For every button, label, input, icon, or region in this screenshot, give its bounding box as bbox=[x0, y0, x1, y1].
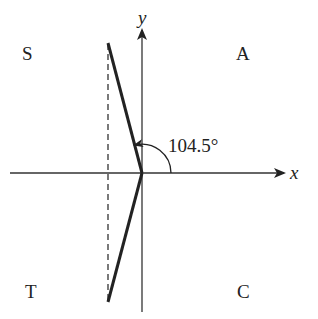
diagram-canvas: y x S A T C 104.5° bbox=[0, 0, 318, 319]
quadrant-label-t: T bbox=[25, 281, 37, 302]
quadrant-label-c: C bbox=[237, 281, 250, 302]
angle-label: 104.5° bbox=[168, 135, 218, 156]
x-axis-label: x bbox=[289, 162, 299, 183]
terminal-side-lower bbox=[108, 173, 142, 302]
y-axis-label: y bbox=[136, 7, 147, 28]
terminal-side-upper bbox=[108, 43, 142, 173]
quadrant-label-s: S bbox=[22, 43, 33, 64]
quadrant-label-a: A bbox=[236, 43, 250, 64]
